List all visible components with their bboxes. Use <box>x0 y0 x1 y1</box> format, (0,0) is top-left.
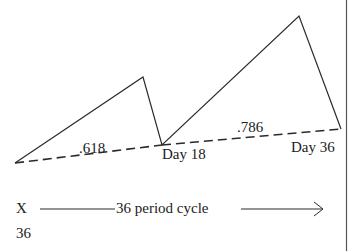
ratio-786-label: .786 <box>237 120 263 135</box>
day-18-label: Day 18 <box>162 147 206 162</box>
x-label: X <box>16 201 27 216</box>
day-36-label: Day 36 <box>291 140 335 155</box>
ratio-618-label: .618 <box>79 141 105 156</box>
x-value-label: 36 <box>16 226 31 241</box>
cycle-label: 36 period cycle <box>116 201 208 216</box>
cycle-diagram: .618 .786 Day 18 Day 36 X 36 period cycl… <box>0 0 359 251</box>
